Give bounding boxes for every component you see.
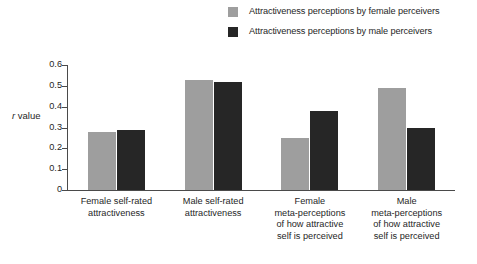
x-axis-category-label-line: meta-perceptions bbox=[352, 208, 461, 220]
y-axis-title-word: value bbox=[15, 110, 40, 121]
y-tick-label-holder: 0 bbox=[14, 190, 62, 191]
y-tick-label-holder: 0.5 bbox=[14, 86, 62, 87]
x-axis-category-label: Female self-ratedattractiveness bbox=[62, 196, 171, 219]
x-axis-category-label-line: Female bbox=[256, 196, 365, 208]
y-tick-label-holder: 0.2 bbox=[14, 148, 62, 149]
y-tick-label-holder: 0.3 bbox=[14, 128, 62, 129]
y-tick-mark bbox=[62, 190, 68, 191]
x-axis-category-labels: Female self-ratedattractivenessMale self… bbox=[68, 196, 455, 260]
x-axis-line bbox=[67, 190, 455, 191]
y-tick-label-holder: 0.1 bbox=[14, 169, 62, 170]
y-tick-label: 0.5 bbox=[20, 80, 62, 90]
x-axis-category-label-line: attractiveness bbox=[62, 208, 171, 220]
y-tick-label: 0 bbox=[20, 184, 62, 194]
bar bbox=[281, 138, 309, 190]
bar bbox=[378, 88, 406, 190]
y-tick-label: 0.4 bbox=[20, 101, 62, 111]
bar bbox=[117, 130, 145, 190]
x-axis-category-label-line: Female self-rated bbox=[62, 196, 171, 208]
x-axis-category-label-line: Male bbox=[352, 196, 461, 208]
x-axis-category-label-line: self is perceived bbox=[256, 231, 365, 243]
x-axis-category-label-line: of how attractive bbox=[256, 219, 365, 231]
y-axis-title: r value bbox=[12, 110, 41, 121]
x-axis-category-label: Malemeta-perceptionsof how attractivesel… bbox=[352, 196, 461, 242]
plot-area: r value 0.60.50.40.30.20.10 Female self-… bbox=[0, 0, 477, 264]
x-axis-category-label-line: of how attractive bbox=[352, 219, 461, 231]
y-tick-label: 0.1 bbox=[20, 163, 62, 173]
bar bbox=[88, 132, 116, 190]
bar bbox=[407, 128, 435, 191]
y-tick-label-holder: 0.4 bbox=[14, 107, 62, 108]
y-tick-label: 0.2 bbox=[20, 142, 62, 152]
y-tick-label: 0.3 bbox=[20, 122, 62, 132]
bar bbox=[310, 111, 338, 190]
x-axis-category-label-line: self is perceived bbox=[352, 231, 461, 243]
x-axis-category-label: Femalemeta-perceptionsof how attractives… bbox=[256, 196, 365, 242]
x-axis-category-label: Male self-ratedattractiveness bbox=[159, 196, 268, 219]
bar bbox=[214, 82, 242, 190]
y-tick-label: 0.6 bbox=[20, 59, 62, 69]
x-axis-category-label-line: meta-perceptions bbox=[256, 208, 365, 220]
y-tick-label-holder: 0.6 bbox=[14, 65, 62, 66]
bars-layer bbox=[68, 65, 455, 190]
bar-chart: Attractiveness perceptions by female per… bbox=[0, 0, 477, 264]
x-axis-category-label-line: Male self-rated bbox=[159, 196, 268, 208]
x-axis-category-label-line: attractiveness bbox=[159, 208, 268, 220]
bar bbox=[185, 80, 213, 190]
